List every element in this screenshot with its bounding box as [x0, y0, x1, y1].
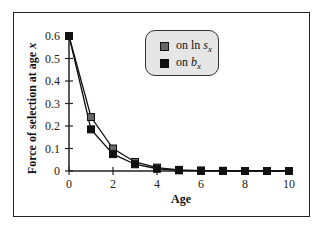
- data-point-marker: [132, 161, 139, 168]
- chart-legend: on ln sx on bx: [145, 30, 219, 76]
- x-tick-label: 10: [283, 177, 295, 191]
- data-point-marker: [286, 168, 293, 175]
- x-tick-label: 8: [242, 177, 248, 191]
- y-tick-label: 0.2: [45, 119, 60, 133]
- data-point-marker: [242, 168, 249, 175]
- x-tick-label: 4: [154, 177, 160, 191]
- black-square-marker-icon: [160, 59, 169, 68]
- y-tick-label: 0.6: [45, 29, 60, 43]
- x-tick-label: 6: [198, 177, 204, 191]
- data-point-marker: [88, 126, 95, 133]
- data-point-marker: [264, 168, 271, 175]
- y-tick-label: 0.5: [45, 52, 60, 66]
- y-tick-label: 0.4: [45, 74, 60, 88]
- legend-item-b: on bx: [160, 55, 201, 71]
- x-tick-label: 0: [66, 177, 72, 191]
- data-point-marker: [198, 167, 205, 174]
- legend-item-ln-s: on ln sx: [160, 38, 212, 54]
- y-tick-label: 0.1: [45, 142, 60, 156]
- data-point-marker: [220, 168, 227, 175]
- y-axis-label: Force of selection at age x: [25, 43, 39, 174]
- data-point-marker: [176, 167, 183, 174]
- gray-square-marker-icon: [160, 42, 169, 51]
- data-point-marker: [66, 33, 73, 40]
- data-point-marker: [110, 151, 117, 158]
- x-tick-label: 2: [110, 177, 116, 191]
- y-tick-label: 0: [54, 164, 60, 178]
- data-point-marker: [154, 165, 161, 172]
- data-point-marker: [88, 114, 95, 121]
- x-axis-label: Age: [171, 192, 192, 206]
- y-tick-label: 0.3: [45, 97, 60, 111]
